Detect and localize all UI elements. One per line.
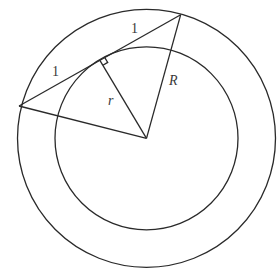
radius-to-chord-start [19,106,147,138]
label-segment-right: 1 [131,21,138,36]
concentric-circles-diagram: 1 1 r R [0,0,277,276]
label-segment-left: 1 [52,64,59,79]
label-inner-radius: r [108,93,114,108]
label-outer-radius: R [168,73,178,88]
radius-r [100,60,147,138]
